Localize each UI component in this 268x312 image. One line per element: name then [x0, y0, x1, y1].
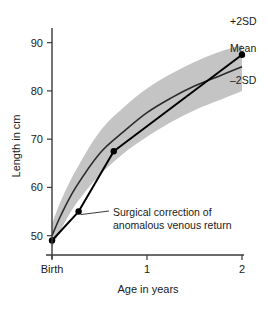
chart-canvas: 5060708090 Birth12 Length in cm Age in y…: [0, 0, 268, 312]
y-axis-tick-label: 50: [31, 230, 43, 242]
x-axis-title: Age in years: [117, 283, 179, 295]
x-axis-tick-label: 2: [239, 263, 245, 275]
annotation-line-2: anomalous venous return: [113, 219, 232, 231]
y-axis-title: Length in cm: [10, 115, 22, 178]
x-axis-tick-label: Birth: [41, 263, 64, 275]
band-label-mean: Mean: [230, 42, 256, 54]
annotation-leader-line: [81, 211, 109, 215]
y-axis-ticks: 5060708090: [31, 37, 52, 242]
band-label-plus2sd: +2SD: [230, 15, 257, 27]
y-axis-tick-label: 80: [31, 85, 43, 97]
x-axis-ticks: Birth12: [41, 255, 245, 275]
annotation-line-1: Surgical correction of: [113, 206, 212, 218]
y-axis-tick-label: 60: [31, 181, 43, 193]
patient-data-point: [111, 148, 117, 154]
band-label-minus2sd: –2SD: [230, 74, 257, 86]
y-axis-tick-label: 70: [31, 133, 43, 145]
growth-chart: 5060708090 Birth12 Length in cm Age in y…: [0, 0, 268, 312]
x-axis-tick-label: 1: [144, 263, 150, 275]
patient-data-point: [75, 208, 81, 214]
y-axis-tick-label: 90: [31, 37, 43, 49]
